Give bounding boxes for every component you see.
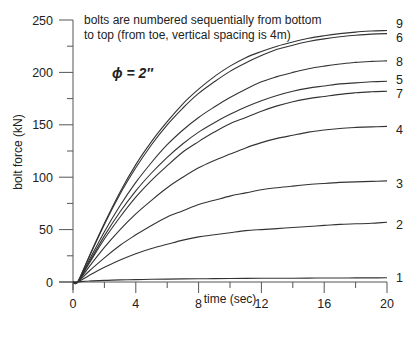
bolt-label-2: 2 — [396, 218, 403, 232]
bolt-label-5: 5 — [396, 73, 403, 87]
bolt-label-1: 1 — [396, 271, 403, 285]
annotation-line-1: bolts are numbered sequentially from bot… — [84, 13, 321, 27]
x-axis-title: time (sec) — [204, 292, 257, 306]
bolt-curve-2 — [73, 222, 387, 282]
bolt-label-3: 3 — [396, 177, 403, 191]
y-tick-label: 200 — [32, 66, 53, 80]
series-labels: 123475869 — [396, 17, 403, 284]
bolt-label-7: 7 — [396, 87, 403, 101]
bolt-label-9: 9 — [396, 17, 403, 31]
bolt-label-4: 4 — [396, 123, 403, 137]
x-tick-label: 4 — [132, 297, 139, 311]
y-axis-title: bolt force (kN) — [11, 114, 25, 189]
y-tick-label: 150 — [32, 118, 53, 132]
bolt-curve-1 — [73, 278, 387, 282]
y-axis: 050100150200250 — [32, 14, 73, 291]
annotation-line-2: to top (from toe, vertical spacing is 4m… — [84, 28, 291, 42]
bolt-force-chart: 050100150200250 048121620 123475869 bolt… — [0, 0, 410, 339]
bolt-curve-7 — [73, 91, 387, 283]
y-tick-label: 100 — [32, 171, 53, 185]
x-tick-label: 20 — [380, 297, 394, 311]
bolt-label-8: 8 — [396, 55, 403, 69]
y-tick-label: 0 — [46, 276, 53, 290]
x-tick-label: 0 — [70, 297, 77, 311]
phi-parameter-label: ϕ = 2″ — [112, 65, 154, 81]
bolt-label-6: 6 — [396, 31, 403, 45]
x-tick-label: 16 — [317, 297, 331, 311]
bolt-curve-3 — [73, 181, 387, 283]
x-tick-label: 8 — [195, 297, 202, 311]
y-tick-label: 50 — [39, 223, 53, 237]
y-tick-label: 250 — [32, 14, 53, 28]
x-tick-label: 12 — [254, 297, 268, 311]
